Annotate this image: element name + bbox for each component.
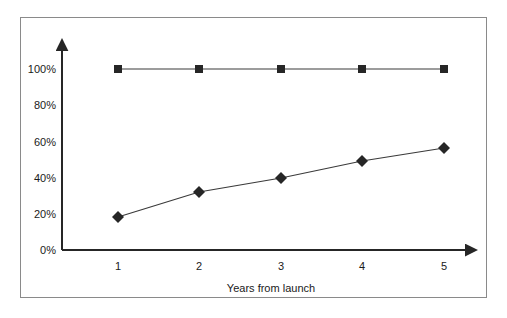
y-tick-label-80: 80% <box>22 100 56 111</box>
y-tick-label-40: 40% <box>22 173 56 184</box>
data-point-marker <box>275 172 287 184</box>
x-tick-label-4: 4 <box>359 261 365 272</box>
y-tick-label-20: 20% <box>22 209 56 220</box>
y-tick-label-0: 0% <box>22 245 56 256</box>
x-tick-label-2: 2 <box>196 261 202 272</box>
y-tick-label-60: 60% <box>22 137 56 148</box>
x-tick-label-5: 5 <box>441 261 447 272</box>
data-point-marker <box>358 65 366 73</box>
series-lower-markers <box>112 142 450 223</box>
x-tick-label-3: 3 <box>278 261 284 272</box>
data-point-marker <box>356 155 368 167</box>
data-point-marker <box>114 65 122 73</box>
data-point-marker <box>438 142 450 154</box>
data-point-marker <box>277 65 285 73</box>
x-axis-title: Years from launch <box>227 283 315 294</box>
data-point-marker <box>195 65 203 73</box>
data-point-marker <box>193 186 205 198</box>
y-tick-label-100: 100% <box>22 64 56 75</box>
data-point-marker <box>440 65 448 73</box>
x-tick-label-1: 1 <box>115 261 121 272</box>
chart-plot-area <box>0 0 507 318</box>
data-point-marker <box>112 211 124 223</box>
figure-canvas: 100% 80% 60% 40% 20% 0% 1 2 3 4 5 Years … <box>0 0 507 318</box>
